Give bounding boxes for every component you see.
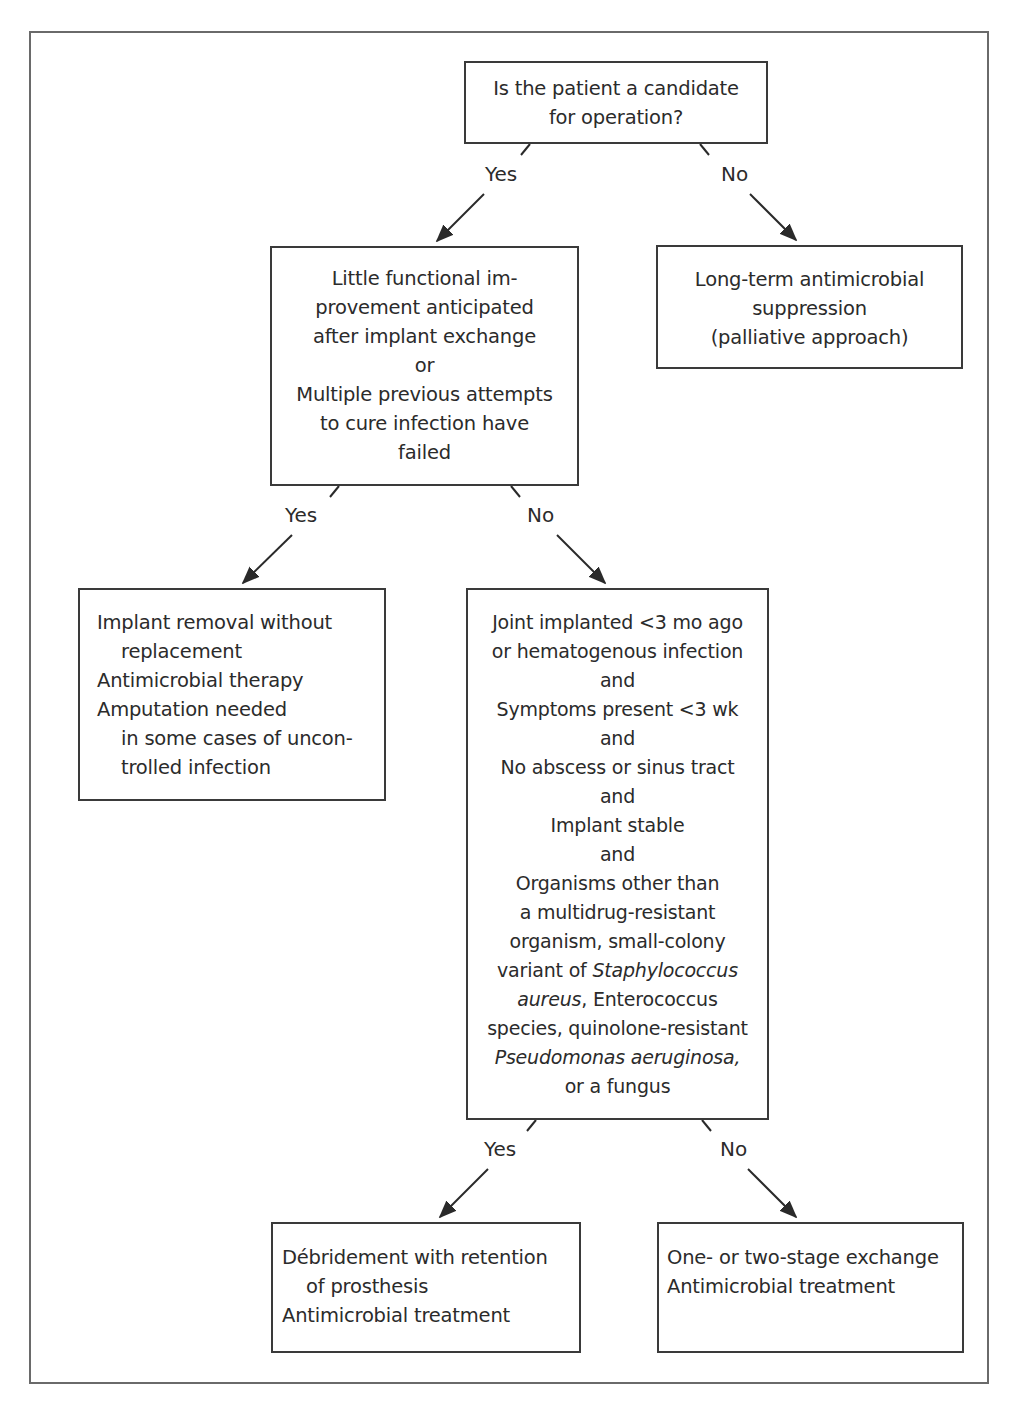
text-plain: , Enterococcus — [581, 988, 717, 1010]
text-italic-organism: Staphylococcus — [592, 959, 738, 981]
node-text: Implant stable — [468, 811, 767, 840]
node-little-functional-improvement: Little functional im- provement anticipa… — [270, 246, 579, 486]
edge-label-start-no: No — [721, 162, 748, 186]
node-text: Amputation needed — [97, 695, 384, 724]
node-text: in some cases of uncon- — [97, 724, 384, 753]
node-text: replacement — [97, 637, 384, 666]
node-text: to cure infection have — [272, 409, 577, 438]
node-debridement-retention: Débridement with retention of prosthesis… — [271, 1222, 581, 1353]
node-text: organism, small-colony — [468, 927, 767, 956]
node-text: Antimicrobial treatment — [282, 1301, 579, 1330]
node-text: species, quinolone-resistant — [468, 1014, 767, 1043]
node-text-pseudomonas: Pseudomonas aeruginosa, — [468, 1043, 767, 1072]
node-text-variant: variant of Staphylococcus — [468, 956, 767, 985]
node-text: and — [468, 666, 767, 695]
node-text: Little functional im- — [272, 264, 577, 293]
node-text: Antimicrobial treatment — [667, 1272, 962, 1301]
node-text: One- or two-stage exchange — [667, 1243, 962, 1272]
node-candidate-for-operation: Is the patient a candidate for operation… — [464, 61, 768, 144]
edge-label-functional-yes: Yes — [285, 503, 317, 527]
node-text: or a fungus — [468, 1072, 767, 1101]
node-text: Organisms other than — [468, 869, 767, 898]
edge-label-functional-no: No — [527, 503, 554, 527]
node-text: (palliative approach) — [658, 323, 961, 352]
node-text: No abscess or sinus tract — [468, 753, 767, 782]
node-text: Antimicrobial therapy — [97, 666, 384, 695]
node-text: Joint implanted <3 mo ago — [468, 608, 767, 637]
node-text: provement anticipated — [272, 293, 577, 322]
node-stage-exchange: One- or two-stage exchange Antimicrobial… — [657, 1222, 964, 1353]
text-italic-organism: Pseudomonas aeruginosa, — [495, 1046, 741, 1068]
edge-label-criteria-yes: Yes — [484, 1137, 516, 1161]
text-italic-organism: aureus — [517, 988, 581, 1010]
node-text: and — [468, 782, 767, 811]
node-retention-criteria: Joint implanted <3 mo ago or hematogenou… — [466, 588, 769, 1120]
node-implant-removal: Implant removal without replacement Anti… — [78, 588, 386, 801]
node-text: Long-term antimicrobial — [658, 265, 961, 294]
node-text: and — [468, 724, 767, 753]
node-text: Débridement with retention — [282, 1243, 579, 1272]
text-plain: variant of — [497, 959, 592, 981]
node-text: failed — [272, 438, 577, 467]
edge-label-criteria-no: No — [720, 1137, 747, 1161]
node-text: Is the patient a candidate — [466, 74, 766, 103]
node-text: Multiple previous attempts — [272, 380, 577, 409]
node-text: or — [272, 351, 577, 380]
node-text: a multidrug-resistant — [468, 898, 767, 927]
node-text: suppression — [658, 294, 961, 323]
edge-label-start-yes: Yes — [485, 162, 517, 186]
node-text: of prosthesis — [282, 1272, 579, 1301]
node-text-aureus: aureus, Enterococcus — [468, 985, 767, 1014]
node-text: Implant removal without — [97, 608, 384, 637]
node-text: Symptoms present <3 wk — [468, 695, 767, 724]
node-text: and — [468, 840, 767, 869]
node-text: trolled infection — [97, 753, 384, 782]
node-long-term-suppression: Long-term antimicrobial suppression (pal… — [656, 245, 963, 369]
node-text: or hematogenous infection — [468, 637, 767, 666]
node-text: after implant exchange — [272, 322, 577, 351]
node-text: for operation? — [466, 103, 766, 132]
